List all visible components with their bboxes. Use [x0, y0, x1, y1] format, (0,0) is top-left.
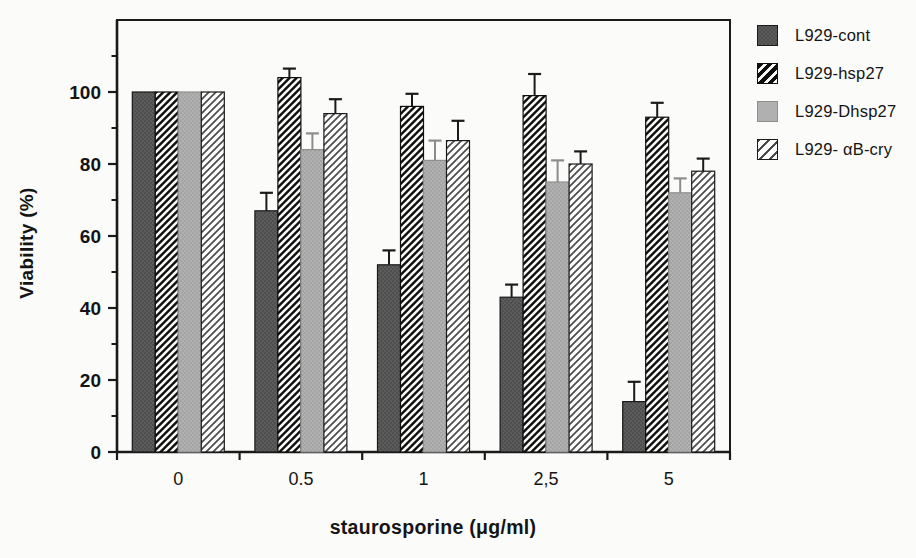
bar-3-4 [692, 171, 715, 452]
legend-item-l929-hsp27: L929-hsp27 [757, 63, 896, 84]
legend-label: L929-hsp27 [795, 64, 884, 83]
legend-swatch-black-hatch [757, 63, 778, 84]
y-tick-label: 0 [90, 442, 101, 463]
bar-0-1 [255, 211, 278, 452]
bar-3-2 [447, 141, 470, 452]
legend-label: L929-cont [795, 26, 870, 45]
legend-label: L929-Dhsp27 [795, 102, 896, 121]
y-tick-label: 80 [80, 154, 101, 175]
y-tick-label: 100 [69, 82, 101, 103]
legend-swatch-white-hatch [757, 139, 778, 160]
y-axis-title: Viability (%) [16, 187, 38, 298]
legend-item-l929-dhsp27: L929-Dhsp27 [757, 101, 896, 122]
bar-3-0 [201, 92, 224, 452]
bar-2-2 [424, 160, 447, 452]
legend-label: L929- αB-cry [795, 140, 892, 159]
bar-2-4 [669, 193, 692, 452]
y-tick-label: 40 [80, 298, 101, 319]
bar-1-2 [401, 106, 424, 452]
bar-1-4 [646, 117, 669, 452]
legend-item-l929-cont: L929-cont [757, 25, 896, 46]
bar-1-3 [523, 96, 546, 452]
bar-1-0 [155, 92, 178, 452]
y-tick-label: 20 [80, 370, 101, 391]
bar-3-1 [324, 114, 347, 452]
legend-swatch-light-stipple [757, 101, 778, 122]
legend-item-l929-ab-cry: L929- αB-cry [757, 139, 896, 160]
legend-swatch-dark-stipple [757, 25, 778, 46]
bar-0-3 [500, 297, 523, 452]
bar-0-0 [132, 92, 155, 452]
x-axis-title: staurosporine (μg/ml) [330, 516, 537, 539]
bar-0-4 [623, 402, 646, 452]
x-category-label: 0 [173, 469, 183, 489]
bar-2-1 [301, 150, 324, 452]
legend: L929-cont L929-hsp27 L929-Dhsp27 L929- α… [757, 25, 896, 177]
x-category-label: 5 [664, 469, 674, 489]
x-category-label: 2,5 [534, 469, 559, 489]
bar-3-3 [569, 164, 592, 452]
x-category-label: 0.5 [288, 469, 313, 489]
figure: 02040608010000.512,55 Viability (%) stau… [0, 0, 916, 558]
y-tick-label: 60 [80, 226, 101, 247]
bar-1-1 [278, 78, 301, 452]
bar-2-3 [546, 182, 569, 452]
x-category-label: 1 [418, 469, 428, 489]
bar-2-0 [178, 92, 201, 452]
bar-0-2 [378, 265, 401, 452]
